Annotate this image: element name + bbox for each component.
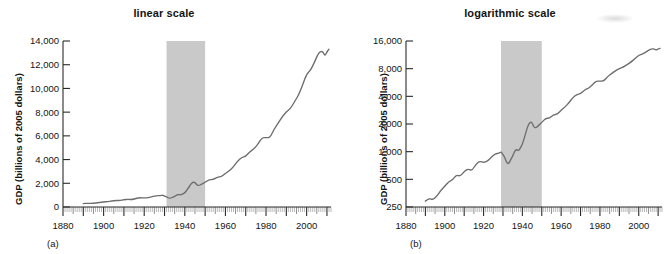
- x-tick-label: 1880: [395, 220, 416, 231]
- y-tick-label: 8,000: [378, 63, 402, 74]
- y-tick-label: 4,000: [378, 91, 402, 102]
- x-tick-label: 1920: [134, 220, 155, 231]
- plot-area-linear: 02,0004,0006,0008,00010,00012,00014,0001…: [0, 0, 336, 254]
- x-tick-label: 2000: [296, 220, 317, 231]
- panel-label-a: (a): [47, 238, 59, 249]
- data-series-line: [83, 49, 329, 203]
- x-tick-label: 1940: [512, 220, 533, 231]
- x-tick-label: 2000: [628, 220, 649, 231]
- x-tick-label: 1940: [174, 220, 195, 231]
- y-tick-label: 10,000: [30, 83, 59, 94]
- x-tick-label: 1880: [52, 220, 73, 231]
- x-tick-label: 1960: [551, 220, 572, 231]
- x-tick-label: 1980: [589, 220, 610, 231]
- panel-label-b: (b): [410, 238, 422, 249]
- y-tick-label: 0: [54, 201, 59, 212]
- chart-panel-linear: linear scale GDP (billions of 2005 dolla…: [0, 0, 336, 254]
- y-tick-label: 2,000: [378, 118, 402, 129]
- y-tick-label: 250: [386, 201, 402, 212]
- chart-panel-logarithmic: logarithmic scale GDP (billions of 2005 …: [330, 0, 664, 254]
- y-tick-label: 500: [386, 174, 402, 185]
- y-tick-label: 6,000: [35, 130, 59, 141]
- y-tick-label: 12,000: [30, 59, 59, 70]
- y-tick-label: 14,000: [30, 35, 59, 46]
- data-series-line: [425, 48, 660, 201]
- plot-area-logarithmic: 2505001,0002,0004,0008,00016,00018801900…: [330, 0, 664, 254]
- y-tick-label: 16,000: [373, 35, 402, 46]
- y-tick-label: 1,000: [378, 146, 402, 157]
- x-tick-label: 1980: [255, 220, 276, 231]
- y-tick-label: 2,000: [35, 178, 59, 189]
- x-tick-label: 1900: [93, 220, 114, 231]
- x-tick-label: 1900: [434, 220, 455, 231]
- x-tick-label: 1920: [473, 220, 494, 231]
- y-tick-label: 8,000: [35, 107, 59, 118]
- gdp-figure: linear scale GDP (billions of 2005 dolla…: [0, 0, 664, 254]
- x-tick-label: 1960: [215, 220, 236, 231]
- y-tick-label: 4,000: [35, 154, 59, 165]
- scan-artifact: [596, 14, 634, 23]
